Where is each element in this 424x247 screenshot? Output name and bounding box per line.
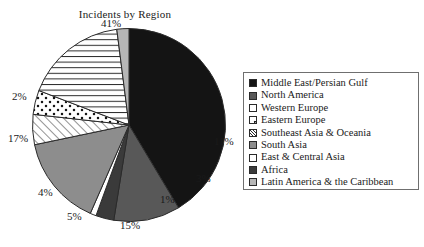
legend-swatch-icon (249, 129, 257, 137)
pie-label-north-america: 11% (214, 135, 234, 147)
legend-item-label: Southeast Asia & Oceania (261, 128, 371, 139)
legend-item[interactable]: Southeast Asia & Oceania (249, 127, 414, 139)
legend-item[interactable]: Africa (249, 164, 414, 176)
pie-label-east-central: 17% (8, 132, 28, 144)
legend-item[interactable]: Middle East/Persian Gulf (249, 77, 414, 89)
legend-swatch-icon (249, 104, 257, 112)
legend-item-label: Latin America & the Caribbean (261, 177, 393, 188)
legend-item-label: Western Europe (261, 103, 328, 114)
legend-item[interactable]: South Asia (249, 139, 414, 151)
legend-swatch-icon (249, 141, 257, 149)
chart-legend: Middle East/Persian GulfNorth AmericaWes… (243, 72, 419, 190)
pie-chart (32, 28, 226, 222)
pie-label-latin-america: 2% (12, 90, 27, 102)
legend-item-label: Middle East/Persian Gulf (261, 78, 368, 89)
legend-item[interactable]: North America (249, 89, 414, 101)
legend-swatch-icon (249, 166, 257, 174)
pie-chart-svg (32, 28, 226, 222)
legend-item-label: East & Central Asia (261, 152, 345, 163)
legend-swatch-icon (249, 154, 257, 162)
legend-swatch-icon (249, 116, 257, 124)
legend-swatch-icon (249, 92, 257, 100)
legend-item-label: Africa (261, 165, 288, 176)
pie-label-middle-east: 41% (101, 17, 121, 29)
legend-item[interactable]: East & Central Asia (249, 151, 414, 163)
pie-label-southeast-asia: 5% (67, 210, 82, 222)
legend-item-label: Eastern Europe (261, 115, 325, 126)
legend-item[interactable]: Eastern Europe (249, 114, 414, 126)
legend-item-label: North America (261, 90, 324, 101)
legend-item[interactable]: Latin America & the Caribbean (249, 176, 414, 188)
pie-label-western-europe: 4% (38, 186, 53, 198)
page-title: Incidents by Region (0, 8, 250, 20)
pie-label-south-asia: 15% (120, 219, 140, 231)
chart-canvas: Incidents by Region 41%11%3% (0, 0, 424, 247)
legend-swatch-icon (249, 79, 257, 87)
legend-item-label: South Asia (261, 140, 307, 151)
pie-label-eastern-europe: 1% (160, 193, 175, 205)
legend-swatch-icon (249, 178, 257, 186)
legend-item[interactable]: Western Europe (249, 102, 414, 114)
pie-label-africa: 3% (196, 172, 211, 184)
